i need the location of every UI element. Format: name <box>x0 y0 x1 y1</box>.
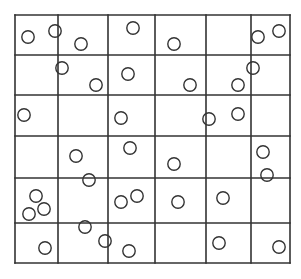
circle-point <box>83 174 95 186</box>
circle-point <box>99 235 111 247</box>
circle-point <box>168 38 180 50</box>
circle-point <box>30 190 42 202</box>
circle-point <box>168 158 180 170</box>
circle-point <box>70 150 82 162</box>
circle-point <box>247 62 259 74</box>
circle-point <box>122 68 134 80</box>
circle-point <box>115 196 127 208</box>
circle-point <box>273 241 285 253</box>
circle-point <box>49 25 61 37</box>
circle-point <box>261 169 273 181</box>
circle-point <box>203 113 215 125</box>
grid-lines <box>15 15 290 263</box>
circle-point <box>257 146 269 158</box>
circle-point <box>232 79 244 91</box>
circle-point <box>131 190 143 202</box>
circle-point <box>232 108 244 120</box>
circle-point <box>23 208 35 220</box>
circle-point <box>115 112 127 124</box>
circle-point <box>124 142 136 154</box>
circle-point <box>172 196 184 208</box>
circle-point <box>217 192 229 204</box>
grid-diagram <box>0 0 301 279</box>
circle-point <box>18 109 30 121</box>
circle-point <box>213 237 225 249</box>
grid-diagram-svg <box>0 0 301 279</box>
circle-point <box>90 79 102 91</box>
circle-point <box>22 31 34 43</box>
circle-point <box>75 38 87 50</box>
circle-point <box>127 22 139 34</box>
circle-point <box>252 31 264 43</box>
circle-point <box>184 79 196 91</box>
circle-point <box>38 203 50 215</box>
circle-point <box>39 242 51 254</box>
circle-point <box>123 245 135 257</box>
circle-point <box>273 25 285 37</box>
